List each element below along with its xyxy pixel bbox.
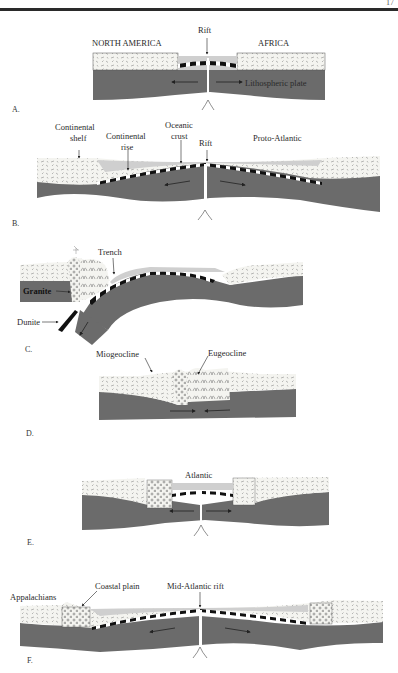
appalachian-block-f [62, 607, 90, 627]
label-continental-shelf-1: Continental [55, 122, 95, 132]
label-oceanic-crust-2: crust [171, 131, 188, 141]
panel-label-c: C. [25, 345, 32, 354]
rift-crack-e [200, 490, 202, 534]
label-oceanic-crust-1: Oceanic [165, 120, 193, 130]
label-trench: Trench [98, 247, 123, 257]
plate-tectonics-diagram: NORTH AMERICA AFRICA Rift Lithospheric p… [0, 0, 398, 673]
panel-f: Appalachians Coastal plain Mid-Atlantic … [10, 581, 383, 665]
panel-label-e: E. [27, 538, 34, 547]
appalachian-block-left [147, 480, 172, 508]
label-rift-b: Rift [199, 138, 213, 148]
miogeocline-arrow [145, 358, 152, 372]
label-granite: Granite [23, 286, 52, 296]
appalachian-block-right [233, 478, 255, 505]
label-appalachians: Appalachians [10, 592, 56, 602]
label-atlantic: Atlantic [185, 470, 213, 480]
coastal-plain-arrow [82, 591, 97, 606]
label-coastal-plain: Coastal plain [95, 581, 140, 591]
label-mid-atlantic-rift: Mid-Atlantic rift [167, 581, 225, 591]
dunite-slab-edge [58, 310, 78, 332]
label-continental-rise-2: rise [121, 142, 134, 152]
label-continental-rise-1: Continental [106, 131, 146, 141]
label-proto-atlantic: Proto-Atlantic [253, 133, 302, 143]
africa-continent [237, 53, 325, 70]
panel-label-d: D. [26, 429, 34, 438]
trench-arrow [113, 258, 114, 274]
volcano-icon [73, 246, 79, 254]
oceanic-crust-e [172, 491, 233, 497]
label-continental-shelf-2: shelf [70, 133, 87, 143]
panel-label-a: A. [12, 105, 20, 114]
panel-a: NORTH AMERICA AFRICA Rift Lithospheric p… [12, 25, 325, 114]
north-america-continent [93, 53, 178, 70]
label-lithospheric-plate: Lithospheric plate [245, 78, 307, 88]
appalachian-block-africa-f [310, 603, 332, 624]
panel-b: Continental shelf Continental rise Ocean… [12, 120, 380, 228]
panel-c: Trench Granite Dunite C. [17, 246, 303, 354]
panel-label-f: F. [27, 656, 33, 665]
label-africa: AFRICA [258, 38, 290, 48]
atlantic-water-e [172, 483, 233, 490]
label-eugeocline: Eugeocline [208, 348, 246, 358]
folded-belt-d [188, 368, 230, 402]
label-dunite: Dunite [17, 317, 40, 327]
panel-d: Miogeocline Eugeocline D. [26, 348, 296, 438]
rift-crack-b [204, 164, 207, 218]
label-north-america: NORTH AMERICA [92, 38, 162, 48]
label-rift-a: Rift [198, 25, 212, 35]
label-miogeocline: Miogeocline [96, 349, 139, 359]
panel-e: Atlantic E. [27, 470, 329, 547]
panel-label-b: B. [12, 219, 19, 228]
